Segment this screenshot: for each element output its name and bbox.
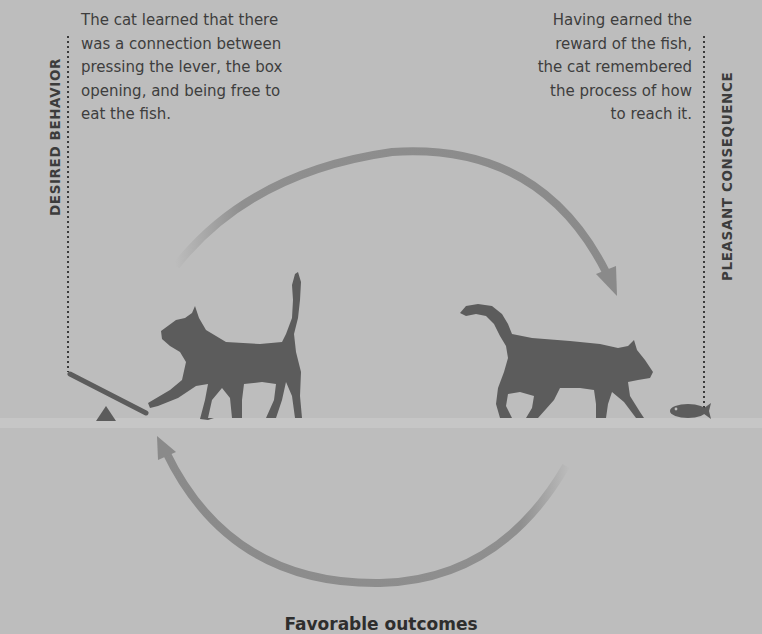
cycle-arrow-top [176,151,617,296]
fulcrum-icon [96,406,116,421]
cycle-arrow-bottom [157,436,566,583]
lever-icon [70,374,146,413]
cat-walking-icon [460,304,653,418]
fish-icon [670,403,711,419]
diagram-caption: Favorable outcomes [0,614,762,634]
cat-pressing-lever-icon [148,272,302,420]
